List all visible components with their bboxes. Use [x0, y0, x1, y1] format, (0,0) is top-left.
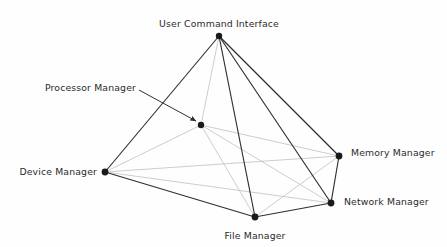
graph-node-memory_manager[interactable] [336, 153, 343, 160]
diagram-canvas: User Command InterfaceProcessor ManagerD… [0, 0, 447, 247]
edges-inner-group [105, 36, 339, 217]
edges-outer-group [105, 36, 339, 217]
graph-node-processor_manager[interactable] [198, 122, 204, 128]
graph-svg [0, 0, 447, 247]
graph-edge-user_command_interface-to-memory_manager [219, 36, 339, 156]
graph-edge-user_command_interface-to-processor_manager [201, 36, 219, 125]
node-label-processor_manager: Processor Manager [45, 83, 136, 92]
graph-node-file_manager[interactable] [252, 214, 259, 221]
graph-edge-file_manager-to-network_manager [255, 203, 331, 217]
graph-node-network_manager[interactable] [328, 200, 335, 207]
callout-arrow-processor-manager [139, 90, 196, 121]
node-label-file_manager: File Manager [224, 231, 285, 240]
node-label-device_manager: Device Manager [19, 167, 97, 176]
graph-edge-device_manager-to-network_manager [105, 172, 331, 203]
node-label-user_command_interface: User Command Interface [159, 19, 279, 28]
callout-arrow-group [139, 90, 196, 121]
graph-edge-processor_manager-to-memory_manager [201, 125, 339, 156]
graph-edge-device_manager-to-processor_manager [105, 125, 201, 172]
graph-node-user_command_interface[interactable] [216, 33, 222, 39]
graph-edge-device_manager-to-memory_manager [105, 156, 339, 172]
node-label-memory_manager: Memory Manager [351, 148, 435, 157]
node-label-network_manager: Network Manager [344, 197, 429, 206]
nodes-group [102, 33, 343, 221]
graph-edge-memory_manager-to-network_manager [331, 156, 339, 203]
graph-edge-user_command_interface-to-device_manager [105, 36, 219, 172]
graph-node-device_manager[interactable] [102, 169, 109, 176]
